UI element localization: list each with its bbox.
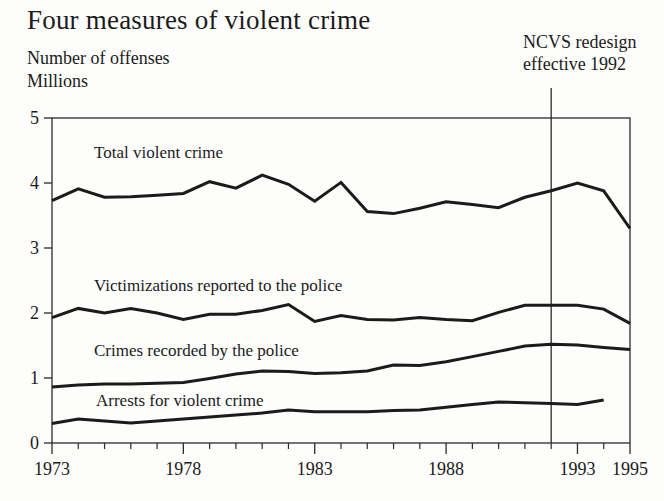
y-tick-label: 2: [30, 303, 39, 323]
x-tick-label: 1988: [428, 459, 464, 479]
y-tick-label: 1: [30, 368, 39, 388]
x-tick-label: 1978: [165, 459, 201, 479]
ncvs-annotation: NCVS redesign effective 1992: [523, 31, 637, 75]
y-tick-label: 5: [30, 108, 39, 128]
series-label-crimes-recorded: Crimes recorded by the police: [94, 341, 299, 361]
series-label-victimizations-reported: Victimizations reported to the police: [94, 276, 342, 296]
y-axis-label-line1: Number of offenses: [27, 48, 170, 69]
y-tick-label: 3: [30, 238, 39, 258]
y-tick-label: 0: [30, 433, 39, 453]
ncvs-annotation-line2: effective 1992: [523, 53, 637, 75]
x-tick-label: 1983: [297, 459, 333, 479]
chart-title: Four measures of violent crime: [27, 5, 370, 36]
y-axis-label-line2: Millions: [27, 71, 88, 92]
chart-plot-area: 012345197319781983198819931995: [0, 0, 664, 501]
chart-page: 012345197319781983198819931995 Four meas…: [0, 0, 664, 501]
series-label-arrests-violent-crime: Arrests for violent crime: [96, 391, 264, 411]
series-label-total-violent-crime: Total violent crime: [94, 143, 223, 163]
series-line-total-violent-crime: [52, 175, 630, 228]
x-tick-label: 1993: [559, 459, 595, 479]
x-tick-label: 1973: [34, 459, 70, 479]
y-tick-label: 4: [30, 173, 39, 193]
x-tick-label: 1995: [612, 459, 648, 479]
ncvs-annotation-line1: NCVS redesign: [523, 31, 637, 53]
series-line-victimizations-reported-to-the-police: [52, 305, 630, 324]
